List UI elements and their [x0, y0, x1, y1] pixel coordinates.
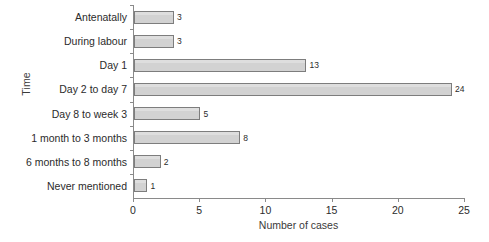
- category-label: Day 8 to week 3: [52, 102, 133, 126]
- bar: [134, 155, 161, 168]
- bar-value-label: 8: [240, 131, 248, 145]
- bar: [134, 83, 452, 96]
- x-axis-tick: [199, 198, 200, 202]
- category-label: 1 month to 3 months: [31, 126, 133, 150]
- category-label: 6 months to 8 months: [26, 150, 133, 174]
- bar: [134, 35, 174, 48]
- category-label: During labour: [64, 29, 133, 53]
- x-axis-tick-label: 20: [378, 204, 418, 216]
- bar: [134, 107, 200, 120]
- x-axis-tick: [398, 198, 399, 202]
- category-label: Never mentioned: [47, 174, 133, 198]
- x-axis-tick-label: 0: [113, 204, 153, 216]
- x-axis-tick: [464, 198, 465, 202]
- bar-highlight: [135, 132, 239, 135]
- category-label: Antenatally: [75, 5, 133, 29]
- bar-value-label: 2: [161, 155, 169, 169]
- bar-highlight: [135, 108, 199, 111]
- x-axis-tick-label: 15: [312, 204, 352, 216]
- x-axis-tick: [265, 198, 266, 202]
- bar-highlight: [135, 180, 146, 183]
- bar: [134, 179, 147, 192]
- x-axis-tick-label: 10: [245, 204, 285, 216]
- bar-value-label: 1: [148, 179, 156, 193]
- bar-chart-figure: Time Antenatally 3 During labour 3 Day 1…: [0, 0, 489, 242]
- bar-value-label: 3: [174, 34, 182, 48]
- plot-area: Antenatally 3 During labour 3 Day 1 13 D…: [133, 5, 464, 198]
- y-axis-title: Time: [20, 54, 32, 114]
- x-axis-tick: [133, 198, 134, 202]
- bar: [134, 59, 306, 72]
- x-axis-title: Number of cases: [133, 219, 464, 231]
- bar: [134, 11, 174, 24]
- bar-value-label: 5: [201, 107, 209, 121]
- bar-value-label: 3: [174, 10, 182, 24]
- bar: [134, 131, 240, 144]
- category-label: Day 2 to day 7: [59, 77, 133, 101]
- x-axis-tick-label: 25: [444, 204, 484, 216]
- bar-highlight: [135, 36, 173, 39]
- x-axis-line: [133, 198, 464, 199]
- bar-highlight: [135, 156, 160, 159]
- bar-value-label: 13: [307, 58, 319, 72]
- x-axis-tick-label: 5: [179, 204, 219, 216]
- bar-highlight: [135, 84, 451, 87]
- bar-highlight: [135, 60, 305, 63]
- bar-highlight: [135, 12, 173, 15]
- bar-value-label: 24: [452, 82, 464, 96]
- category-label: Day 1: [100, 53, 133, 77]
- x-axis-tick: [332, 198, 333, 202]
